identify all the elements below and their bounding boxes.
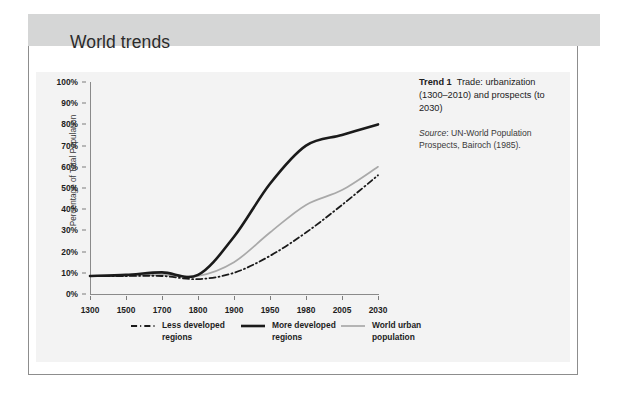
y-axis-tick-labels: 0%10%20%30%40%50%60%70%80%90%100% [38,82,86,294]
x-tick-mark [234,296,235,300]
y-tick-label: 40% [61,204,78,214]
legend-swatch-icon [340,321,366,331]
plot-area [90,82,378,294]
y-tick-mark [82,145,86,146]
page-title: World trends [70,32,170,53]
y-tick-label: 100% [57,77,78,87]
x-tick-mark [90,296,91,300]
y-tick-mark [82,294,86,295]
series-line [90,175,378,279]
y-tick-label: 10% [61,268,78,278]
x-tick-mark [378,296,379,300]
x-axis-tick-labels: 130015001700180019001950198020052030 [90,296,379,318]
line-chart: Percentage of Total Population 0%10%20%3… [40,74,400,359]
series-line [90,167,378,277]
y-tick-mark [82,272,86,273]
legend-label: Less developed regions [162,320,240,343]
x-tick-mark [342,296,343,300]
series-line [90,124,378,277]
x-tick-label: 1950 [261,305,280,315]
y-tick-mark [82,124,86,125]
x-tick-mark [306,296,307,300]
section-header-band: World trends [28,14,600,46]
x-tick-mark [270,296,271,300]
caption-source-label: Source [419,128,446,138]
y-tick-mark [82,209,86,210]
chart-legend: Less developed regionsMore developed reg… [88,320,418,354]
y-tick-label: 50% [61,183,78,193]
legend-item: More developed regions [240,320,350,343]
series-canvas [90,82,378,294]
x-tick-label: 2030 [369,305,388,315]
y-tick-label: 20% [61,247,78,257]
y-tick-mark [82,82,86,83]
x-tick-mark [198,296,199,300]
y-tick-label: 90% [61,98,78,108]
legend-swatch-icon [240,321,266,331]
y-tick-mark [82,251,86,252]
y-tick-mark [82,188,86,189]
x-tick-label: 1800 [189,305,208,315]
page-root: World trends Percentage of Total Populat… [0,0,621,397]
figure-caption: Trend 1 Trade: urbanization (1300–2010) … [419,76,565,151]
caption-main-text: Trend 1 Trade: urbanization (1300–2010) … [419,76,565,116]
y-tick-label: 70% [61,141,78,151]
x-tick-label: 1900 [225,305,244,315]
x-tick-label: 1980 [297,305,316,315]
legend-swatch-icon [130,321,156,331]
y-tick-mark [82,103,86,104]
x-tick-label: 1700 [153,305,172,315]
y-tick-mark [82,166,86,167]
x-tick-mark [162,296,163,300]
y-tick-label: 0% [66,289,78,299]
legend-label: World urban population [372,320,450,343]
legend-label: More developed regions [272,320,350,343]
y-tick-label: 80% [61,119,78,129]
legend-item: World urban population [340,320,450,343]
caption-lead: Trend 1 [419,77,452,87]
y-tick-mark [82,230,86,231]
x-tick-label: 2005 [333,305,352,315]
legend-item: Less developed regions [130,320,240,343]
caption-source: Source: UN-World Population Prospects, B… [419,127,565,151]
x-tick-label: 1500 [117,305,136,315]
y-tick-label: 60% [61,162,78,172]
x-tick-mark [126,296,127,300]
y-tick-label: 30% [61,225,78,235]
x-tick-label: 1300 [81,305,100,315]
